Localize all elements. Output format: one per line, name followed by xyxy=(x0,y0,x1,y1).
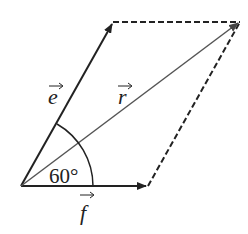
svg-text:f: f xyxy=(80,200,89,225)
vector-e xyxy=(21,24,112,186)
svg-text:e: e xyxy=(48,84,58,109)
dashed-edge-right xyxy=(148,22,240,186)
label-e: e xyxy=(48,83,63,109)
svg-text:r: r xyxy=(118,84,127,109)
angle-label: 60° xyxy=(49,164,78,188)
vector-diagram: e r f 60° xyxy=(0,0,248,234)
label-f: f xyxy=(80,192,94,225)
